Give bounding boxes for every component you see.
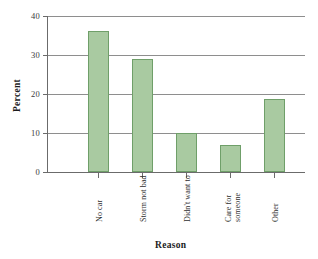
x-tick-mark-5 (274, 173, 275, 178)
bar-no-car (88, 31, 109, 172)
bar-storm-not-bad (132, 59, 153, 172)
y-tick-mark-20 (43, 94, 48, 95)
x-category-label-storm-not-bad: Storm not bad (139, 175, 148, 222)
x-tick-mark-1 (98, 173, 99, 178)
bar-care-for-someone (220, 145, 241, 172)
y-tick-mark-30 (43, 55, 48, 56)
gridline-20 (47, 94, 305, 95)
y-tick-label-40: 40 (18, 12, 40, 21)
x-category-label-other: Other (271, 203, 280, 222)
bar-other (264, 99, 285, 172)
y-tick-label-30: 30 (18, 51, 40, 60)
y-tick-mark-0 (43, 172, 48, 173)
gridline-40 (47, 16, 305, 17)
y-tick-mark-10 (43, 133, 48, 134)
y-tick-label-0: 0 (18, 168, 40, 177)
y-tick-label-10: 10 (18, 129, 40, 138)
x-category-label-no-car: No car (95, 200, 104, 222)
x-category-label-didnt-want-to: Didn't want to (183, 175, 192, 222)
axis-baseline (47, 172, 305, 173)
bar-chart: 40 30 20 10 0 Percent No car Storm not b… (0, 0, 318, 259)
bar-didnt-want-to (176, 133, 197, 172)
x-category-label-care-for-someone: Care for someone (224, 170, 242, 222)
y-axis-title: Percent (12, 79, 22, 112)
gridline-30 (47, 55, 305, 56)
y-tick-mark-40 (43, 16, 48, 17)
x-axis-title: Reason (155, 240, 186, 250)
